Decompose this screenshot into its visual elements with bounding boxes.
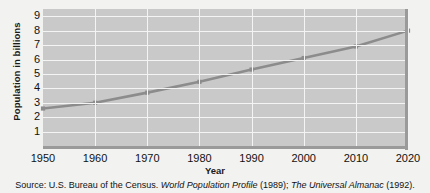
gridline-horizontal	[43, 45, 408, 46]
x-tick-1980: 1980	[176, 152, 222, 164]
gridline-horizontal	[43, 88, 408, 89]
x-tick-1990: 1990	[229, 152, 275, 164]
y-tick-9: 9	[26, 10, 40, 21]
series-line	[43, 31, 408, 109]
x-tick-1960: 1960	[72, 152, 118, 164]
source-title-2: The Universal Almanac	[291, 180, 384, 190]
gridline-horizontal	[43, 31, 408, 32]
y-tick-7: 7	[26, 39, 40, 50]
y-tick-6: 6	[26, 54, 40, 65]
plot-frame-right	[405, 9, 408, 150]
population-growth-chart: Population in billions 123456789 1950196…	[0, 0, 430, 193]
x-axis-tick-labels: 19501960197019801990200020102020	[0, 152, 430, 166]
x-tick-1970: 1970	[124, 152, 170, 164]
gridline-vertical	[356, 9, 357, 146]
source-prefix: Source: U.S. Bureau of the Census.	[15, 180, 158, 190]
plot-area	[43, 9, 408, 146]
x-tick-2000: 2000	[281, 152, 327, 164]
gridline-horizontal	[43, 103, 408, 104]
source-caption: Source: U.S. Bureau of the Census. World…	[0, 180, 430, 191]
y-tick-4: 4	[26, 82, 40, 93]
y-tick-2: 2	[26, 111, 40, 122]
plot-frame-bottom	[43, 146, 408, 149]
gridline-horizontal	[43, 60, 408, 61]
y-tick-1: 1	[26, 126, 40, 137]
gridline-horizontal	[43, 16, 408, 17]
gridline-horizontal	[43, 74, 408, 75]
y-tick-8: 8	[26, 25, 40, 36]
source-year-1: (1989);	[260, 180, 289, 190]
x-axis-label: Year	[0, 165, 430, 176]
y-tick-5: 5	[26, 68, 40, 79]
data-series-world-population	[43, 9, 408, 146]
data-point-1950	[41, 106, 45, 110]
x-tick-2010: 2010	[333, 152, 379, 164]
source-title-1: World Population Profile	[161, 180, 258, 190]
source-year-2: (1992).	[386, 180, 415, 190]
gridline-horizontal	[43, 117, 408, 118]
gridline-vertical	[304, 9, 305, 146]
gridline-vertical	[199, 9, 200, 146]
y-tick-3: 3	[26, 97, 40, 108]
x-tick-2020: 2020	[385, 152, 430, 164]
gridline-vertical	[252, 9, 253, 146]
y-axis-label: Population in billions	[11, 7, 22, 137]
gridline-vertical	[95, 9, 96, 146]
gridline-vertical	[147, 9, 148, 146]
gridline-vertical	[408, 9, 409, 146]
x-tick-1950: 1950	[20, 152, 66, 164]
gridline-horizontal	[43, 132, 408, 133]
